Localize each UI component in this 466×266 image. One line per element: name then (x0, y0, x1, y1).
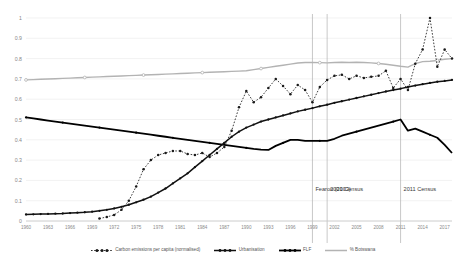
series-marker-botswana (201, 71, 204, 74)
x-axis-tick-label: 1978 (146, 225, 170, 231)
series-marker-urbanisation (341, 100, 343, 102)
series-marker-carbon (135, 185, 138, 188)
series-marker-urbanisation (76, 212, 78, 214)
series-marker-urbanisation (297, 110, 299, 112)
series-marker-botswana (260, 67, 263, 70)
x-axis-tick-label: 2002 (322, 225, 346, 231)
legend-item[interactable]: Urbanisation (214, 247, 264, 254)
series-marker-carbon (297, 84, 300, 87)
series-marker-carbon (223, 146, 226, 149)
x-axis-tick-label: 2017 (433, 225, 457, 231)
legend-label: Carbon emissions per capita (normalised) (115, 247, 200, 253)
y-axis-tick-label: 0.9 (2, 35, 22, 41)
series-marker-carbon (179, 150, 182, 153)
y-axis-tick-label: 0.2 (2, 177, 22, 183)
series-marker-carbon (245, 90, 248, 93)
series-marker-carbon (370, 76, 373, 79)
series-marker-urbanisation (311, 107, 313, 109)
series-marker-urbanisation (451, 79, 453, 81)
series-marker-flf (62, 121, 64, 123)
series-marker-urbanisation (319, 105, 321, 107)
series-marker-carbon (341, 74, 344, 77)
legend-item[interactable]: FLF (279, 247, 312, 254)
series-marker-carbon (414, 62, 417, 65)
legend-item[interactable]: Carbon emissions per capita (normalised) (91, 247, 201, 254)
x-axis-tick-label: 1984 (190, 225, 214, 231)
series-marker-urbanisation (421, 83, 423, 85)
series-marker-carbon (333, 75, 336, 78)
series-marker-urbanisation (179, 177, 181, 179)
series-marker-carbon (289, 93, 292, 96)
series-marker-urbanisation (444, 80, 446, 82)
series-marker-urbanisation (260, 120, 262, 122)
series-marker-flf (355, 131, 357, 133)
x-axis-tick-label: 1990 (234, 225, 258, 231)
x-axis-tick-label: 1960 (14, 225, 38, 231)
series-marker-carbon (436, 65, 439, 68)
series-marker-urbanisation (348, 98, 350, 100)
series-marker-urbanisation (172, 182, 174, 184)
series-marker-carbon (274, 78, 277, 81)
series-marker-carbon (186, 153, 189, 156)
series-marker-urbanisation (223, 142, 225, 144)
x-axis-tick-label: 1969 (80, 225, 104, 231)
series-marker-urbanisation (253, 123, 255, 125)
series-marker-urbanisation (429, 82, 431, 84)
series-marker-carbon (150, 159, 153, 162)
series-marker-carbon (311, 101, 314, 104)
series-marker-urbanisation (98, 210, 100, 212)
series-marker-urbanisation (194, 166, 196, 168)
series-marker-carbon (399, 78, 402, 81)
series-marker-urbanisation (289, 112, 291, 114)
series-marker-carbon (252, 101, 255, 104)
y-axis-tick-label: 0.1 (2, 198, 22, 204)
x-axis-tick-label: 2008 (367, 225, 391, 231)
solid-gray-icon (325, 247, 347, 254)
series-marker-carbon (304, 89, 307, 92)
x-axis-tick-label: 1993 (256, 225, 280, 231)
series-marker-carbon (451, 57, 454, 60)
series-marker-urbanisation (142, 199, 144, 201)
series-marker-flf (282, 142, 284, 144)
series-marker-flf (429, 134, 431, 136)
series-marker-carbon (429, 17, 432, 20)
x-axis-tick-label: 1981 (168, 225, 192, 231)
y-axis-tick-label: 0 (2, 218, 22, 224)
annotation-label: 2011 Census (404, 186, 437, 192)
series-marker-urbanisation (201, 160, 203, 162)
series-line-botswana (26, 59, 452, 80)
series-marker-flf (392, 120, 394, 122)
series-marker-carbon (128, 199, 131, 202)
series-marker-carbon (98, 217, 101, 220)
series-marker-urbanisation (91, 211, 93, 213)
series-marker-carbon (216, 152, 219, 155)
series-marker-botswana (142, 74, 145, 77)
y-axis-tick-label: 0.8 (2, 56, 22, 62)
x-axis-tick-label: 1972 (102, 225, 126, 231)
legend-label: % Botswana (350, 247, 376, 253)
series-marker-urbanisation (113, 207, 115, 209)
series-marker-flf (319, 140, 321, 142)
series-marker-carbon (282, 85, 285, 88)
series-marker-carbon (385, 70, 388, 73)
series-marker-urbanisation (436, 81, 438, 83)
series-marker-urbanisation (377, 92, 379, 94)
x-axis-tick-label: 2011 (389, 225, 413, 231)
y-axis-tick-label: 0.5 (2, 117, 22, 123)
y-axis-tick-label: 1 (2, 15, 22, 21)
chart-legend: Carbon emissions per capita (normalised)… (0, 243, 466, 257)
series-marker-carbon (201, 152, 204, 155)
series-line-flf (26, 117, 452, 153)
series-marker-urbanisation (363, 95, 365, 97)
series-marker-carbon (363, 77, 366, 80)
x-axis-tick-label: 1987 (212, 225, 236, 231)
series-marker-urbanisation (238, 131, 240, 133)
series-marker-carbon (260, 96, 263, 99)
y-axis-tick-label: 0.3 (2, 157, 22, 163)
series-marker-urbanisation (414, 84, 416, 86)
legend-item[interactable]: % Botswana (325, 247, 375, 254)
series-marker-carbon (267, 87, 270, 90)
series-marker-urbanisation (25, 213, 27, 215)
series-marker-botswana (377, 62, 380, 65)
series-marker-carbon (326, 79, 329, 82)
